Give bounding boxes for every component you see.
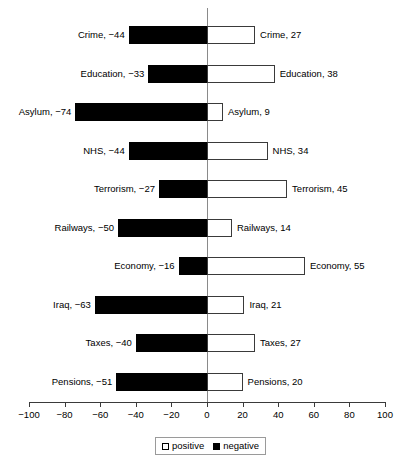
legend-label-negative: negative xyxy=(223,441,259,451)
legend-label-positive: positive xyxy=(172,441,204,451)
bar-negative xyxy=(75,103,207,121)
bar-label-positive: Iraq, 21 xyxy=(249,296,281,314)
bar-positive xyxy=(207,257,305,275)
x-axis-tick-label: 60 xyxy=(294,409,334,420)
bar-row: Taxes, −40Taxes, 27 xyxy=(0,334,404,352)
legend-item-negative: negative xyxy=(213,441,259,451)
bar-label-positive: Crime, 27 xyxy=(260,26,301,44)
bar-negative xyxy=(116,373,207,391)
x-axis-tick xyxy=(243,402,244,407)
x-axis-tick-label: 80 xyxy=(329,409,369,420)
x-axis-tick xyxy=(349,402,350,407)
bar-negative xyxy=(129,142,207,160)
bar-row: Iraq, −63Iraq, 21 xyxy=(0,296,404,314)
x-axis-tick xyxy=(278,402,279,407)
bar-label-negative: Crime, −44 xyxy=(78,26,125,44)
bar-label-positive: Terrorism, 45 xyxy=(292,180,347,198)
bar-positive xyxy=(207,180,287,198)
bar-positive xyxy=(207,65,275,83)
bar-row: Asylum, −74Asylum, 9 xyxy=(0,103,404,121)
bar-positive xyxy=(207,296,244,314)
bar-negative xyxy=(118,219,207,237)
plot-area: Crime, −44Crime, 27Education, −33Educati… xyxy=(0,0,404,402)
bar-label-positive: NHS, 34 xyxy=(273,142,309,160)
chart-legend: positive negative xyxy=(155,437,266,455)
bar-label-positive: Asylum, 9 xyxy=(228,103,270,121)
bar-row: Pensions, −51Pensions, 20 xyxy=(0,373,404,391)
bar-positive xyxy=(207,103,223,121)
bar-row: Education, −33Education, 38 xyxy=(0,65,404,83)
bar-row: Economy, −16Economy, 55 xyxy=(0,257,404,275)
bar-positive xyxy=(207,142,268,160)
x-axis-tick xyxy=(385,402,386,407)
legend-swatch-positive-icon xyxy=(162,443,169,450)
bar-label-negative: Economy, −16 xyxy=(114,257,174,275)
bar-label-negative: Education, −33 xyxy=(81,65,145,83)
bar-label-negative: Pensions, −51 xyxy=(52,373,112,391)
bar-positive xyxy=(207,334,255,352)
x-axis-tick xyxy=(29,402,30,407)
x-axis-tick xyxy=(65,402,66,407)
x-axis-tick-label: 20 xyxy=(223,409,263,420)
x-axis-tick-label: −80 xyxy=(45,409,85,420)
bar-row: Railways, −50Railways, 14 xyxy=(0,219,404,237)
bar-label-positive: Economy, 55 xyxy=(310,257,365,275)
bar-label-negative: Taxes, −40 xyxy=(86,334,132,352)
bar-negative xyxy=(129,26,207,44)
bar-negative xyxy=(148,65,207,83)
bar-positive xyxy=(207,26,255,44)
x-axis-tick-label: 100 xyxy=(365,409,404,420)
x-axis-tick-label: −60 xyxy=(80,409,120,420)
bar-label-negative: Railways, −50 xyxy=(55,219,114,237)
x-axis-tick-label: −20 xyxy=(151,409,191,420)
bar-label-positive: Pensions, 20 xyxy=(248,373,303,391)
legend-swatch-negative-icon xyxy=(213,443,220,450)
bar-negative xyxy=(95,296,207,314)
bar-label-positive: Railways, 14 xyxy=(237,219,291,237)
diverging-bar-chart: Crime, −44Crime, 27Education, −33Educati… xyxy=(0,0,404,464)
x-axis-tick xyxy=(314,402,315,407)
bar-label-negative: NHS, −44 xyxy=(83,142,124,160)
bar-negative xyxy=(159,180,207,198)
bar-negative xyxy=(136,334,207,352)
x-axis-tick-label: 40 xyxy=(258,409,298,420)
x-axis-tick xyxy=(136,402,137,407)
x-axis-tick-label: −100 xyxy=(9,409,49,420)
bar-label-positive: Education, 38 xyxy=(280,65,338,83)
x-axis-tick-label: −40 xyxy=(116,409,156,420)
x-axis-tick xyxy=(171,402,172,407)
x-axis: −100−80−60−40−20020406080100 xyxy=(0,402,404,432)
bar-row: Terrorism, −27Terrorism, 45 xyxy=(0,180,404,198)
legend-item-positive: positive xyxy=(162,441,204,451)
bar-positive xyxy=(207,373,243,391)
bar-row: Crime, −44Crime, 27 xyxy=(0,26,404,44)
bar-negative xyxy=(179,257,207,275)
bar-positive xyxy=(207,219,232,237)
bar-label-positive: Taxes, 27 xyxy=(260,334,301,352)
x-axis-tick-label: 0 xyxy=(187,409,227,420)
bar-label-negative: Terrorism, −27 xyxy=(94,180,155,198)
x-axis-tick xyxy=(100,402,101,407)
bar-row: NHS, −44NHS, 34 xyxy=(0,142,404,160)
bar-label-negative: Iraq, −63 xyxy=(53,296,91,314)
x-axis-tick xyxy=(207,402,208,407)
bar-label-negative: Asylum, −74 xyxy=(19,103,72,121)
